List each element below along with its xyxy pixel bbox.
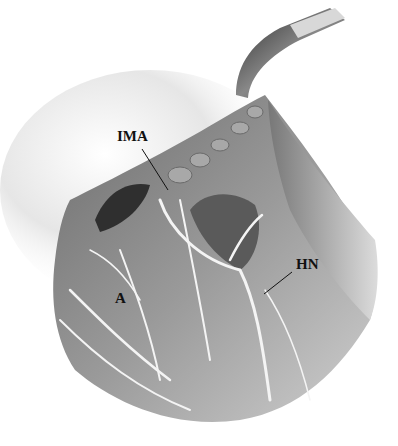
label-ima: IMA bbox=[117, 128, 148, 145]
label-hn: HN bbox=[296, 256, 319, 273]
label-a: A bbox=[115, 290, 126, 307]
illustration: IMA HN A bbox=[0, 0, 398, 446]
anatomy-drawing bbox=[0, 0, 398, 446]
